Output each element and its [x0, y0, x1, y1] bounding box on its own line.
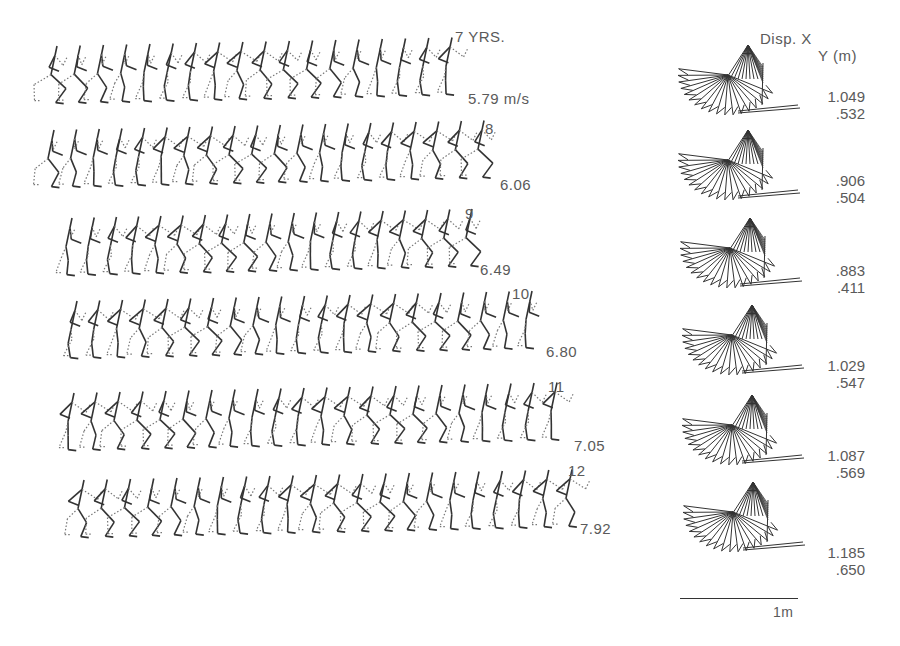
speed-label: 6.80	[546, 343, 577, 360]
stick-figure-sequences	[0, 0, 900, 646]
displacement-values: 1.049.532	[795, 88, 865, 122]
disp-x-value: 1.185	[795, 544, 865, 561]
displacement-values: 1.185.650	[795, 544, 865, 578]
disp-header-line2: Y (m)	[818, 47, 857, 64]
age-label: 8	[485, 120, 494, 137]
scale-label: 1m	[773, 604, 793, 620]
age-label: 7 YRS.	[455, 28, 505, 45]
disp-y-value: .411	[795, 279, 865, 296]
disp-header-line1: Disp. X	[760, 30, 812, 47]
disp-y-value: .532	[795, 105, 865, 122]
speed-label: 7.05	[574, 437, 605, 454]
speed-label: 7.92	[580, 520, 611, 537]
disp-x-value: .906	[795, 172, 865, 189]
displacement-values: .883.411	[795, 262, 865, 296]
disp-y-value: .547	[795, 374, 865, 391]
age-label: 9	[465, 205, 474, 222]
disp-x-value: 1.087	[795, 447, 865, 464]
disp-y-value: .569	[795, 464, 865, 481]
age-label: 11	[548, 378, 565, 395]
disp-x-value: 1.049	[795, 88, 865, 105]
age-label: 12	[568, 462, 586, 479]
displacement-values: 1.087.569	[795, 447, 865, 481]
displacement-values: 1.029.547	[795, 357, 865, 391]
disp-y-value: .504	[795, 189, 865, 206]
scale-bar	[680, 598, 798, 599]
disp-y-value: .650	[795, 561, 865, 578]
age-label: 10	[512, 285, 530, 302]
displacement-values: .906.504	[795, 172, 865, 206]
disp-x-value: .883	[795, 262, 865, 279]
disp-x-value: 1.029	[795, 357, 865, 374]
speed-label: 5.79 m/s	[468, 90, 530, 107]
speed-label: 6.49	[480, 261, 511, 278]
speed-label: 6.06	[500, 176, 531, 193]
